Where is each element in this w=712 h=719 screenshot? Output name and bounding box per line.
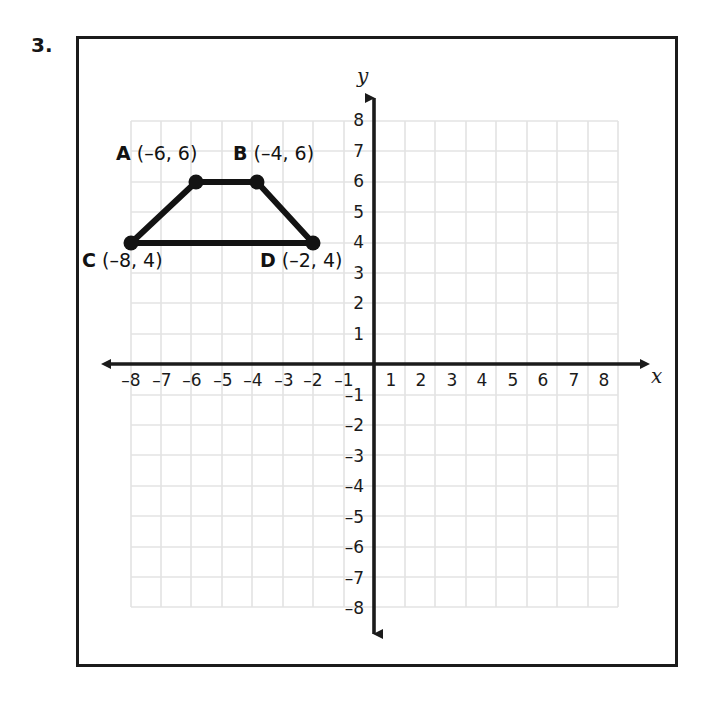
point-label-c: C (–8, 4): [82, 249, 163, 271]
point-label-d: D (–2, 4): [260, 249, 342, 271]
y-tick-3: 3: [342, 263, 364, 283]
vertex-point-a: [189, 175, 204, 190]
y-tick-4: 4: [342, 232, 364, 252]
x-tick-2: 2: [411, 370, 431, 390]
x-tick--4: –4: [238, 370, 268, 390]
worksheet-page: 3.: [0, 0, 712, 719]
x-tick--7: –7: [147, 370, 177, 390]
point-label-b-name: B: [233, 142, 247, 164]
point-label-a-name: A: [116, 142, 131, 164]
y-tick-8: 8: [342, 110, 364, 130]
point-label-a: A (–6, 6): [116, 142, 197, 164]
point-label-b-coords: (–4, 6): [254, 142, 315, 164]
x-tick-5: 5: [503, 370, 523, 390]
y-tick--7: –7: [332, 568, 364, 588]
point-label-d-coords: (–2, 4): [282, 249, 343, 271]
y-tick--8: –8: [332, 598, 364, 618]
x-tick-7: 7: [564, 370, 584, 390]
point-label-a-coords: (–6, 6): [137, 142, 198, 164]
y-tick-2: 2: [342, 293, 364, 313]
vertex-point-b: [250, 175, 265, 190]
y-axis-label: y: [357, 64, 368, 88]
x-tick-6: 6: [533, 370, 553, 390]
y-tick-5: 5: [342, 202, 364, 222]
y-tick--2: –2: [332, 415, 364, 435]
x-tick--5: –5: [208, 370, 238, 390]
y-tick-1: 1: [342, 324, 364, 344]
x-tick--6: –6: [177, 370, 207, 390]
coordinate-graph: x y –8 –7 –6 –5 –4 –3 –2 –1 1 2 3 4 5 6 …: [0, 0, 712, 719]
x-tick-1: 1: [381, 370, 401, 390]
x-tick-4: 4: [472, 370, 492, 390]
y-tick-7: 7: [342, 141, 364, 161]
y-tick--6: –6: [332, 537, 364, 557]
x-tick--2: –2: [298, 370, 328, 390]
x-axis-label: x: [651, 364, 662, 388]
point-label-d-name: D: [260, 249, 276, 271]
x-tick-3: 3: [442, 370, 462, 390]
y-tick--5: –5: [332, 507, 364, 527]
point-label-c-coords: (–8, 4): [102, 249, 163, 271]
x-tick-8: 8: [594, 370, 614, 390]
y-tick--1: –1: [332, 385, 364, 405]
x-tick--3: –3: [269, 370, 299, 390]
point-label-b: B (–4, 6): [233, 142, 314, 164]
y-tick--3: –3: [332, 446, 364, 466]
y-tick-6: 6: [342, 171, 364, 191]
y-tick--4: –4: [332, 476, 364, 496]
point-label-c-name: C: [82, 249, 96, 271]
x-tick--8: –8: [116, 370, 146, 390]
